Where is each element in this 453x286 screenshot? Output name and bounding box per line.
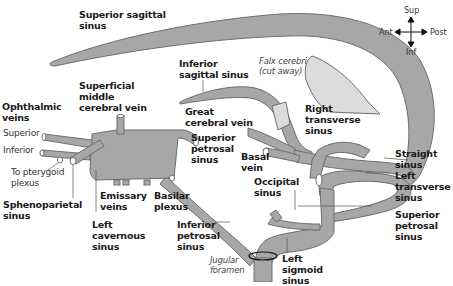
- arrow-down-icon: [408, 42, 414, 47]
- superior-ophthalmic-vein-shape: [44, 134, 92, 148]
- compass-inf: Inf: [406, 48, 416, 57]
- label-superior-petrosal-sinus-left: Superior petrosal sinus: [395, 209, 439, 242]
- arrow-left-icon: [395, 29, 400, 35]
- label-emissary-veins: Emissary veins: [100, 190, 147, 212]
- emissary-vein-2: [123, 180, 129, 185]
- inferior-ophthalmic-vein-opening: [40, 150, 44, 156]
- superior-ophthalmic-vein-opening: [42, 134, 46, 141]
- label-falx-cerebri: Falx cerebri (cut away): [259, 56, 307, 76]
- emissary-vein-1: [114, 180, 120, 185]
- pterygoid-plexus-opening: [58, 157, 63, 163]
- label-left-transverse-sinus: Left transverse sinus: [395, 170, 450, 203]
- jugular-bulb-shape: [254, 258, 272, 282]
- label-inferior-petrosal-sinus: Inferior petrosal sinus: [177, 219, 220, 252]
- label-jugular-foramen: Jugular foramen: [210, 255, 244, 275]
- superficial-middle-cerebral-vein-stub: [117, 116, 124, 134]
- arrow-right-icon: [422, 29, 427, 35]
- label-left-sigmoid-sinus: Left sigmoid sinus: [282, 253, 323, 286]
- compass-ant: Ant: [379, 28, 393, 37]
- label-right-transverse-sinus: Right transverse sinus: [305, 103, 360, 136]
- label-great-cerebral-vein: Great cerebral vein: [185, 106, 253, 128]
- label-superior-petrosal-sinus-right: Superior petrosal sinus: [191, 132, 235, 165]
- emissary-vein-3: [144, 180, 150, 185]
- label-inferior-sagittal-sinus: Inferior sagittal sinus: [179, 58, 248, 80]
- falx-cerebri-piece-small: [272, 102, 290, 130]
- label-ophthalmic-veins: Ophthalmic veins: [2, 101, 61, 123]
- label-ophthalmic-superior: Superior: [3, 128, 39, 139]
- label-straight-sinus: Straight sinus: [395, 148, 437, 170]
- sphenoparietal-sinus-opening: [70, 158, 76, 165]
- compass-sup: Sup: [404, 6, 419, 15]
- label-sphenoparietal-sinus: Sphenoparietal sinus: [3, 199, 82, 221]
- occipital-sinus-opening-top: [316, 174, 322, 186]
- compass-post: Post: [430, 28, 447, 37]
- arrow-up-icon: [408, 17, 414, 22]
- label-basal-vein: Basal vein: [241, 151, 269, 173]
- superficial-middle-cerebral-vein-opening: [117, 114, 124, 117]
- cavernous-sinus-shape: [90, 130, 198, 180]
- label-left-cavernous-sinus: Left cavernous sinus: [92, 219, 145, 252]
- label-superficial-middle-cerebral-vein: Superficial middle cerebral vein: [79, 80, 147, 113]
- label-occipital-sinus: Occipital sinus: [254, 176, 299, 198]
- basilar-plexus-opening: [170, 175, 175, 181]
- label-superior-sagittal-sinus: Superior sagittal sinus: [79, 9, 166, 31]
- label-basilar-plexus: Basilar plexus: [154, 190, 190, 212]
- label-to-pterygoid-plexus: To pterygoid plexus: [11, 167, 64, 189]
- label-ophthalmic-inferior: Inferior: [3, 145, 34, 156]
